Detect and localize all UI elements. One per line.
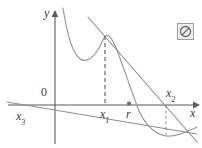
x2-subscript: 2 [171, 95, 175, 104]
y-axis-arrowhead [52, 10, 59, 17]
prohibited-circle-badge [177, 23, 194, 40]
x1-label: x1 [100, 108, 109, 123]
plot-canvas [0, 0, 202, 148]
x-axis-label: x [190, 107, 195, 119]
prohibited-circle-icon [179, 25, 192, 38]
x2-label: x2 [166, 87, 175, 102]
y-axis-label: y [44, 7, 49, 19]
x1-subscript: 1 [105, 116, 109, 125]
r-label: r [126, 108, 131, 120]
newton-method-figure: y x 0 x1 x2 x3 r [0, 0, 202, 148]
x3-label: x3 [16, 110, 25, 125]
x3-subscript: 3 [21, 118, 25, 127]
root-point-marker-r [127, 101, 131, 105]
origin-label: 0 [41, 86, 47, 98]
